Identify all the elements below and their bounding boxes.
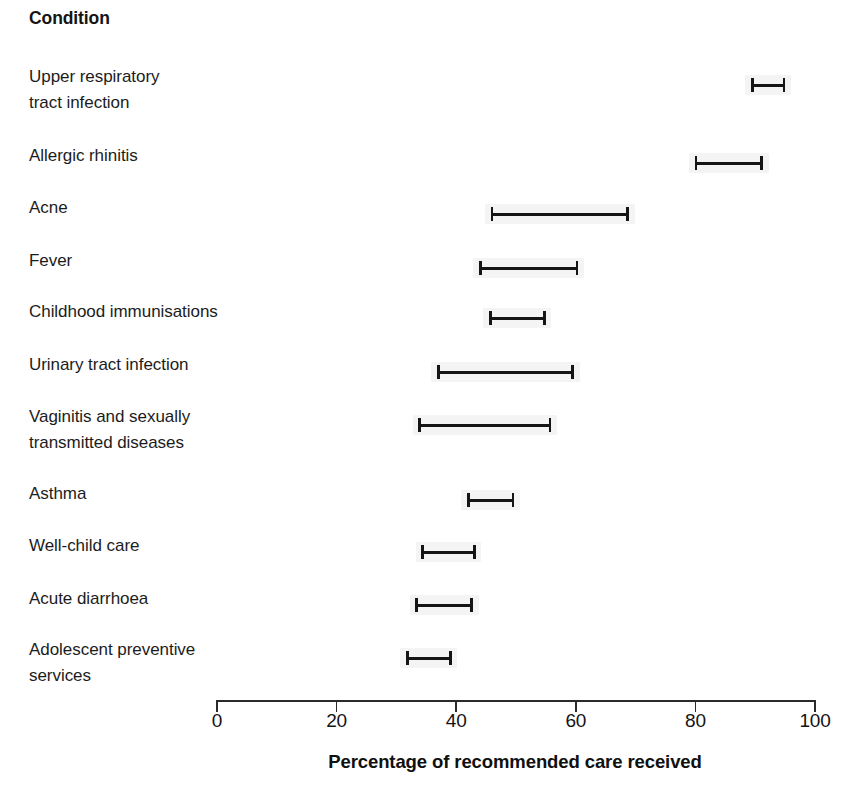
errorbar-cap-high [449,651,452,665]
errorbar-cap-high [571,365,574,379]
errorbar-cap-low [421,545,424,559]
x-axis-tick-label: 40 [446,710,467,732]
errorbar-line [696,162,762,165]
x-axis-tick-label: 80 [685,710,706,732]
forest-plot-figure: Condition Upper respiratory tract infect… [0,0,850,796]
errorbar-line [423,551,474,554]
x-axis-tick [814,700,816,712]
x-axis-tick-label: 60 [565,710,586,732]
errorbar-cap-high [470,598,473,612]
errorbar-cap-high [576,261,579,275]
errorbar-cap-high [473,545,476,559]
x-axis-tick [695,700,697,712]
errorbar-row [0,153,850,173]
x-axis-tick [575,700,577,712]
errorbar-row [0,595,850,615]
x-axis-title-text: Percentage of recommended care received [328,751,701,773]
errorbar-cap-low [695,156,698,170]
errorbar-cap-low [491,207,494,221]
errorbar-line [407,657,450,660]
errorbar-line [417,604,472,607]
x-axis-tick-label: 100 [799,710,830,732]
errorbar-line [490,317,544,320]
x-axis-line [217,700,815,702]
errorbar-cap-low [415,598,418,612]
x-axis-tick [216,700,218,712]
errorbar-cap-high [783,78,786,92]
errorbar-cap-low [467,493,470,507]
errorbar-line [438,371,573,374]
errorbar-row [0,490,850,510]
x-axis-tick [336,700,338,712]
errorbar-cap-low [489,311,492,325]
errorbar-cap-high [543,311,546,325]
x-axis-tick-label: 0 [212,710,222,732]
errorbar-cap-high [760,156,763,170]
errorbar-cap-high [549,418,552,432]
errorbar-cap-high [626,207,629,221]
errorbar-cap-low [751,78,754,92]
errorbar-cap-low [418,418,421,432]
errorbar-row [0,362,850,382]
errorbar-row [0,75,850,95]
errorbar-line [468,499,513,502]
errorbar-cap-high [512,493,515,507]
errorbar-cap-low [479,261,482,275]
errorbar-line [752,84,784,87]
errorbar-cap-low [437,365,440,379]
errorbar-row [0,308,850,328]
errorbar-row [0,204,850,224]
errorbar-row [0,415,850,435]
errorbar-row [0,258,850,278]
errorbar-cap-low [406,651,409,665]
errorbar-row [0,542,850,562]
errorbar-row [0,648,850,668]
page-bottom-edge [0,786,850,796]
errorbar-line [480,267,577,270]
x-axis-tick [455,700,457,712]
column-header-condition: Condition [29,8,110,29]
x-axis-tick-label: 20 [326,710,347,732]
x-axis-title: Percentage of recommended care received [0,751,850,773]
errorbar-line [492,213,628,216]
errorbar-line [420,424,550,427]
